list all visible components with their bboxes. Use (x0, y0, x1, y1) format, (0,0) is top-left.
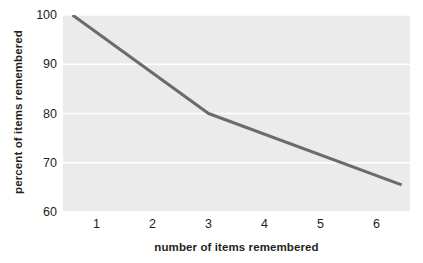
x-tick-label-4: 4 (244, 218, 284, 231)
x-tick-label-2: 2 (133, 218, 173, 231)
x-axis-title: number of items remembered (63, 241, 410, 253)
chart-figure: 10090807060 123456 number of items remem… (0, 0, 423, 263)
x-tick-label-5: 5 (300, 218, 340, 231)
x-tick-label-1: 1 (77, 218, 117, 231)
y-axis-title: percent of items remembered (12, 12, 24, 212)
x-tick-label-6: 6 (356, 218, 396, 231)
x-tick-label-3: 3 (189, 218, 229, 231)
x-axis-tick-labels: 123456 (0, 0, 423, 263)
